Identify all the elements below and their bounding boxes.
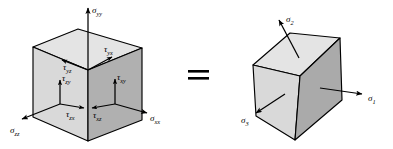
stress-cube-figure: σyy σxx σzz τyx [0,0,393,149]
